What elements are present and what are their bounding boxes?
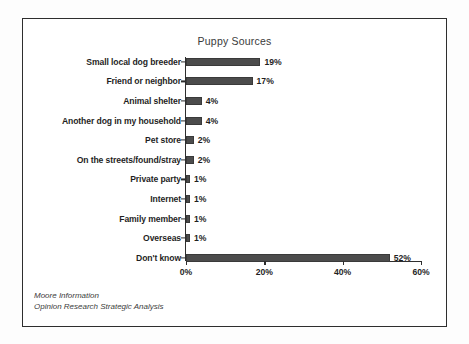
bar [186,156,194,164]
category-label: Animal shelter [123,96,181,106]
bar [186,97,202,105]
bar-row: Don't know52% [23,248,446,268]
bar-row: Private party1% [23,170,446,190]
bar-row: Friend or neighbor17% [23,72,446,92]
bar [186,117,202,125]
category-label: Family member [119,214,181,224]
x-tick-mark [186,261,187,265]
source-note-line-2: Opinion Research Strategic Analysis [34,301,164,312]
bar [186,195,190,203]
bar-row: On the streets/found/stray2% [23,150,446,170]
category-label: Private party [130,174,181,184]
bar-row: Overseas1% [23,228,446,248]
bar [186,136,194,144]
bar-row: Another dog in my household4% [23,111,446,131]
bar [186,77,253,85]
source-note-line-1: Moore Information [34,290,164,301]
x-tick-label: 40% [334,267,351,277]
bar [186,215,190,223]
screenshot-root: Puppy Sources Small local dog breeder19%… [0,0,469,344]
x-tick-mark [264,261,265,265]
bar-value-label: 1% [194,233,206,243]
bar [186,175,190,183]
category-label: On the streets/found/stray [77,155,181,165]
bar-value-label: 1% [194,174,206,184]
bar-row: Animal shelter4% [23,91,446,111]
bar [186,254,390,262]
bar-value-label: 1% [194,194,206,204]
bar-row: Small local dog breeder19% [23,52,446,72]
category-label: Another dog in my household [62,116,181,126]
bar-value-label: 52% [394,253,411,263]
plot-area: Small local dog breeder19%Friend or neig… [23,19,446,326]
x-tick-mark [421,261,422,265]
category-label: Don't know [136,253,181,263]
x-tick-label: 20% [256,267,273,277]
bar-row: Pet store2% [23,130,446,150]
bar-value-label: 2% [198,155,210,165]
bar-value-label: 4% [206,96,218,106]
bar-value-label: 19% [264,57,281,67]
bar-value-label: 1% [194,214,206,224]
bar [186,234,190,242]
bar-row: Family member1% [23,209,446,229]
x-tick-label: 60% [412,267,429,277]
bar-value-label: 17% [257,76,274,86]
x-tick-label: 0% [180,267,192,277]
category-label: Pet store [145,135,181,145]
bar [186,58,260,66]
bar-value-label: 4% [206,116,218,126]
category-label: Small local dog breeder [86,57,181,67]
category-label: Friend or neighbor [106,76,181,86]
source-note: Moore Information Opinion Research Strat… [34,290,164,312]
x-tick-mark [343,261,344,265]
chart-frame: Puppy Sources Small local dog breeder19%… [22,18,447,327]
bar-row: Internet1% [23,189,446,209]
category-label: Overseas [143,233,181,243]
category-label: Internet [150,194,181,204]
bar-value-label: 2% [198,135,210,145]
